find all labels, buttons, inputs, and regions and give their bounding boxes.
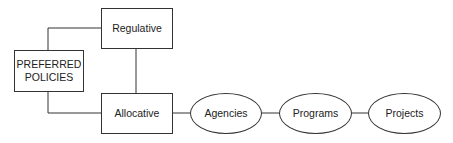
node-programs: Programs (279, 93, 352, 134)
node-label: Projects (386, 107, 424, 120)
node-regulative: Regulative (101, 8, 173, 49)
node-label: Agencies (204, 107, 247, 120)
node-allocative: Allocative (101, 93, 173, 134)
node-label: PREFERRED (17, 58, 82, 71)
edge-preferred-allocative (48, 92, 101, 113)
node-label: Programs (293, 107, 339, 120)
node-label: POLICIES (25, 71, 73, 84)
node-preferred-policies: PREFERRED POLICIES (14, 50, 84, 92)
node-label: Regulative (112, 22, 162, 35)
edge-preferred-regulative (48, 28, 101, 50)
node-label: Allocative (115, 107, 160, 120)
node-agencies: Agencies (190, 93, 262, 134)
node-projects: Projects (368, 93, 441, 134)
